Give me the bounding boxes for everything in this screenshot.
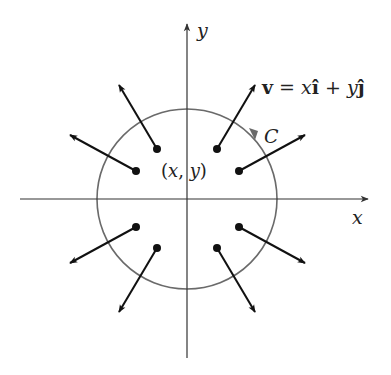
point-dot	[153, 145, 161, 153]
circle-label: C	[264, 125, 279, 147]
point-label: (x, y)	[161, 160, 207, 181]
point-dot	[213, 244, 221, 252]
vector-field-diagram: y x C (x, y) v = xî + yĵ	[0, 0, 391, 375]
vector-arrow	[119, 248, 157, 312]
point-dot	[213, 145, 221, 153]
y-axis-label: y	[196, 19, 208, 41]
point-dot	[132, 167, 140, 175]
point-dot	[132, 223, 140, 231]
x-axis-label: x	[352, 206, 363, 228]
point-dot	[235, 167, 243, 175]
point-dot	[235, 223, 243, 231]
vector-arrow	[239, 227, 305, 263]
field-equation: v = xî + yĵ	[261, 76, 365, 98]
point-dot	[153, 244, 161, 252]
vector-arrow	[217, 248, 255, 312]
